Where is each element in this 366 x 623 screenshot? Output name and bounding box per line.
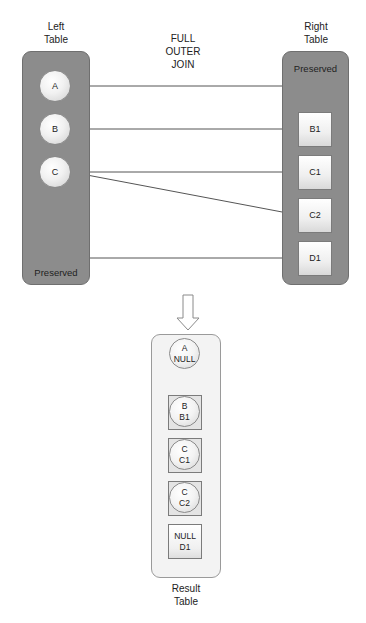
result-row-2-left: B	[182, 401, 188, 412]
result-row-null-d1: NULL D1	[168, 524, 202, 559]
right-label-line-1: Right	[286, 20, 346, 33]
result-row-1-left: A	[182, 343, 188, 354]
right-row-c2: C2	[298, 198, 332, 233]
left-row-a: A	[39, 70, 71, 102]
result-row-b-b1: B B1	[168, 395, 202, 430]
left-row-b: B	[39, 113, 71, 145]
left-table-label: Left Table	[26, 20, 86, 46]
right-row-b1: B1	[298, 112, 332, 147]
join-title: FULL OUTER JOIN	[150, 32, 216, 71]
result-label-line-2: Table	[156, 595, 216, 608]
left-label-line-2: Table	[26, 33, 86, 46]
title-line-2: OUTER	[150, 45, 216, 58]
result-row-c-c1: C C1	[168, 438, 202, 473]
result-row-c-c2: C C2	[168, 481, 202, 516]
down-arrow-icon	[177, 295, 199, 330]
right-row-c1: C1	[298, 155, 332, 190]
result-row-3-right: C1	[179, 455, 190, 466]
right-row-c1-label: C1	[309, 167, 321, 178]
result-row-5-left: NULL	[174, 531, 196, 542]
result-row-2-right: B1	[179, 412, 189, 423]
result-table-label: Result Table	[156, 582, 216, 608]
left-label-line-1: Left	[26, 20, 86, 33]
right-row-d1: D1	[298, 241, 332, 276]
title-line-1: FULL	[150, 32, 216, 45]
left-row-a-label: A	[52, 81, 58, 92]
title-line-3: JOIN	[150, 58, 216, 71]
result-row-4-left: C	[181, 487, 187, 498]
result-row-a-null-circle: A NULL	[169, 338, 200, 369]
result-row-1-right: NULL	[174, 354, 196, 365]
right-row-c2-label: C2	[309, 210, 321, 221]
right-row-d1-label: D1	[309, 253, 321, 264]
result-row-c-c1-circle: C C1	[169, 439, 200, 470]
right-row-b1-label: B1	[309, 124, 320, 135]
right-label-line-2: Table	[286, 33, 346, 46]
right-preserved-label: Preserved	[282, 63, 349, 74]
result-row-5-right: D1	[180, 542, 191, 553]
left-row-c-label: C	[52, 167, 59, 178]
result-row-a-null: A NULL	[168, 337, 202, 372]
result-row-3-left: C	[181, 444, 187, 455]
result-row-c-c2-circle: C C2	[169, 482, 200, 513]
left-preserved-label: Preserved	[22, 267, 90, 278]
left-row-c: C	[39, 156, 71, 188]
left-row-b-label: B	[52, 124, 58, 135]
result-label-line-1: Result	[156, 582, 216, 595]
result-row-b-b1-circle: B B1	[169, 396, 200, 427]
right-table-label: Right Table	[286, 20, 346, 46]
result-row-4-right: C2	[179, 498, 190, 509]
